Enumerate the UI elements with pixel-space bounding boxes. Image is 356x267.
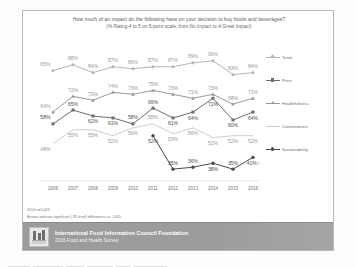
banner-survey-name: 2016 Food and Health Survey [55,237,188,244]
data-point-price-2015 [232,118,235,121]
legend-item-convenience[interactable]: Convenience [266,122,308,131]
data-point-price-2011 [152,107,155,110]
value-label-healthfulness-2006: 64% [40,103,51,109]
chart-subtitle-part-a: (% Rating 4 to 5 on 5-point scale, from [106,24,189,29]
data-point-sustainability-2012 [171,167,174,170]
value-label-convenience-2016: 52% [248,138,259,144]
value-label-convenience-2011: 58% [148,114,159,120]
chart-subtitle-part-e: ) [250,24,252,29]
value-label-healthfulness-2009: 74% [108,83,119,89]
value-label-convenience-2006: 48% [40,146,51,152]
x-tick-label-2011: 2011 [148,186,158,191]
line-chart-plot: 2006200720082009201020112012201320142015… [31,43,261,201]
value-label-taste-2013: 89% [188,53,199,59]
data-point-price-2010 [132,122,135,125]
value-label-taste-2012: 87% [168,57,179,63]
legend-marker-sustainability-icon [266,146,280,153]
legend-label-convenience: Convenience [282,124,308,129]
data-point-taste-2009 [111,65,115,69]
x-tick-label-2015: 2015 [228,186,239,191]
x-tick-label-2012: 2012 [168,186,179,191]
x-tick-label-2016: 2016 [248,186,259,191]
x-tick-label-2007: 2007 [68,186,79,191]
banner-text: International Food Information Council F… [55,229,188,244]
legend-item-sustainability[interactable]: Sustainability [266,145,308,154]
value-label-price-2010: 58% [128,114,139,120]
legend-item-price[interactable]: Price [266,76,292,85]
data-point-healthfulness-2011 [151,88,155,91]
chart-subtitle-part-d: A Great Impact [218,24,250,29]
value-label-healthfulness-2014: 73% [208,85,219,91]
chart-subtitle: (% Rating 4 to 5 on 5-point scale, from … [23,23,334,30]
value-label-sustainability-2011: 52% [148,138,159,144]
legend-marker-healthfulness-icon [266,100,280,107]
value-label-taste-2008: 84% [88,63,99,69]
chart-title: How much of an impact do the following h… [23,16,334,23]
value-label-convenience-2012: 53% [168,136,179,142]
data-point-taste-2016 [251,71,255,75]
value-label-taste-2007: 88% [68,55,79,61]
chart-title-block: How much of an impact do the following h… [23,16,334,30]
value-label-price-2007: 65% [68,101,79,107]
value-label-price-2013: 64% [188,115,199,121]
data-point-price-2008 [92,114,95,117]
data-point-sustainability-2015 [231,167,234,170]
value-label-healthfulness-2008: 70% [88,91,99,97]
value-label-price-2016: 64% [248,115,259,121]
data-point-price-2014 [212,97,215,100]
value-label-sustainability-2012: 35% [168,160,179,166]
value-label-taste-2006: 85% [40,61,51,67]
footnote-significance: Arrows indicate significant (.95 level) … [27,214,327,221]
legend-item-healthfulness[interactable]: Healthfulness [266,99,309,108]
value-label-taste-2014: 90% [208,51,219,57]
data-point-price-2013 [192,111,195,114]
data-point-healthfulness-2007 [71,94,75,97]
value-label-price-2011: 66% [148,99,159,105]
value-label-price-2008: 62% [88,118,99,124]
chart-slide: How much of an impact do the following h… [22,10,334,251]
scanned-page: How much of an impact do the following h… [0,0,356,267]
value-label-price-2015: 60% [228,122,239,128]
data-point-sustainability-2016 [251,156,254,159]
x-tick-label-2009: 2009 [108,186,119,191]
value-label-healthfulness-2016: 71% [248,89,259,95]
value-label-healthfulness-2010: 73% [128,85,139,91]
value-label-sustainability-2015: 35% [228,160,239,166]
value-label-healthfulness-2011: 75% [148,81,159,87]
data-point-taste-2012 [171,65,175,69]
value-label-price-2012: 61% [168,120,179,126]
legend-marker-convenience-icon [266,123,280,130]
data-point-price-2006 [52,122,55,125]
data-point-taste-2007 [71,63,75,67]
data-point-taste-2010 [131,67,135,71]
data-point-price-2009 [112,116,115,119]
data-point-price-2016 [252,111,255,114]
chart-subtitle-part-b: No Impact [189,24,211,29]
legend-item-taste[interactable]: Taste [266,53,293,62]
x-tick-label-2006: 2006 [48,186,59,191]
chart-subtitle-part-c: to [211,24,218,29]
value-label-healthfulness-2013: 71% [188,89,199,95]
value-label-taste-2011: 87% [148,57,159,63]
x-tick-label-2008: 2008 [88,186,99,191]
value-label-healthfulness-2015: 68% [228,95,239,101]
value-label-convenience-2008: 55% [88,132,99,138]
data-point-taste-2011 [151,65,155,69]
data-point-taste-2013 [191,61,195,65]
value-label-healthfulness-2007: 72% [68,87,79,93]
value-label-taste-2010: 86% [128,59,139,65]
data-point-taste-2006 [51,69,55,73]
data-point-healthfulness-2014 [211,92,215,95]
value-label-taste-2015: 83% [228,65,239,71]
value-label-sustainability-2013: 36% [188,158,199,164]
legend-label-taste: Taste [282,55,293,60]
value-label-convenience-2007: 55% [68,132,79,138]
legend-marker-price-icon [266,77,280,84]
banner-organization-name: International Food Information Council F… [55,229,188,237]
legend-label-price: Price [282,78,292,83]
value-label-convenience-2013: 56% [188,130,199,136]
value-label-convenience-2009: 52% [108,138,119,144]
data-point-healthfulness-2016 [251,96,255,99]
chart-legend: TastePriceHealthfulnessConvenienceSustai… [266,53,332,169]
data-point-taste-2008 [91,71,95,75]
